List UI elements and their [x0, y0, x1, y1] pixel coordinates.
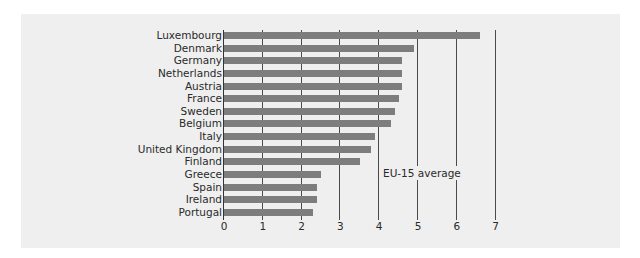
category-label: Portugal: [179, 206, 223, 218]
bar: [224, 95, 399, 102]
x-tick-label: 4: [369, 220, 389, 232]
bar: [224, 70, 402, 77]
bar: [224, 83, 402, 90]
category-label: Greece: [185, 168, 222, 180]
bar-chart: LuxembourgDenmarkGermanyNetherlandsAustr…: [0, 0, 640, 258]
x-tick-label: 5: [408, 220, 428, 232]
category-label: Sweden: [181, 105, 223, 117]
bar: [224, 120, 391, 127]
x-tick-label: 3: [330, 220, 350, 232]
bar: [224, 57, 402, 64]
category-label: Germany: [174, 54, 222, 66]
x-tick-label: 1: [253, 220, 273, 232]
category-label: Austria: [185, 80, 222, 92]
bar: [224, 108, 395, 115]
bar: [224, 209, 313, 216]
bar: [224, 158, 360, 165]
bar: [224, 184, 317, 191]
x-tick-label: 2: [292, 220, 312, 232]
x-tick-label: 7: [486, 220, 506, 232]
bar: [224, 133, 375, 140]
bar: [224, 146, 371, 153]
x-tick-label: 6: [447, 220, 467, 232]
category-label: France: [187, 92, 222, 104]
category-label: Ireland: [186, 193, 222, 205]
category-label: Luxembourg: [157, 29, 222, 41]
bar: [224, 45, 414, 52]
gridline-5: [417, 30, 418, 220]
category-label: Belgium: [179, 117, 222, 129]
bar: [224, 196, 317, 203]
category-label: Italy: [199, 130, 222, 142]
bar: [224, 32, 480, 39]
category-label: Spain: [193, 181, 222, 193]
x-tick-label: 0: [214, 220, 234, 232]
gridline-7: [495, 30, 496, 220]
category-label: Finland: [184, 155, 222, 167]
gridline-6: [456, 30, 457, 220]
category-label: Denmark: [174, 42, 222, 54]
category-label: Netherlands: [158, 67, 222, 79]
bar: [224, 171, 321, 178]
eu15-average-label: EU-15 average: [381, 166, 463, 180]
category-label: United Kingdom: [138, 143, 222, 155]
